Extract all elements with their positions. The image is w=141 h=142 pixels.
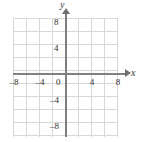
tick-label-x-pos4: 4 bbox=[90, 78, 95, 87]
gridline-vertical bbox=[104, 18, 105, 137]
tick-label-y-neg8: –8 bbox=[50, 122, 59, 131]
y-axis-line bbox=[65, 12, 67, 137]
tick-label-x-neg4: –4 bbox=[36, 78, 45, 87]
tick-label-x-pos8: 8 bbox=[116, 78, 121, 87]
gridline-vertical bbox=[78, 18, 79, 137]
coordinate-plane-figure: x y 0 –8 –4 4 8 8 4 –4 –8 bbox=[0, 0, 141, 142]
gridline-vertical bbox=[52, 18, 53, 137]
tick-label-y-pos8: 8 bbox=[54, 18, 59, 27]
tick-label-origin: 0 bbox=[56, 78, 61, 87]
x-axis-label: x bbox=[131, 68, 135, 78]
x-axis-line bbox=[13, 73, 126, 75]
tick-label-y-pos4: 4 bbox=[54, 44, 59, 53]
gridline-vertical bbox=[26, 18, 27, 137]
y-axis-label: y bbox=[60, 0, 64, 10]
tick-label-x-neg8: –8 bbox=[10, 78, 19, 87]
tick-label-y-neg4: –4 bbox=[50, 96, 59, 105]
